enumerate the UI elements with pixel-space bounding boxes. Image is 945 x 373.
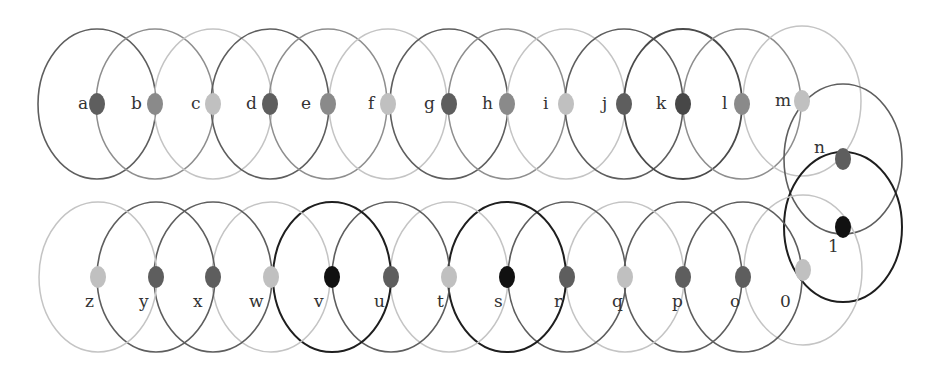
node-label-y: y xyxy=(138,291,149,311)
node-dot-t xyxy=(441,266,457,288)
node-dot-h xyxy=(499,93,515,115)
node-label-a: a xyxy=(78,93,88,113)
node-label-p: p xyxy=(672,291,683,311)
node-label-w: w xyxy=(249,291,264,311)
overlapping-circles-diagram: abcdefghijklmn10opqrstuvwxyz xyxy=(0,0,945,373)
node-label-1: 1 xyxy=(828,236,839,256)
node-label-s: s xyxy=(494,291,503,311)
node-label-c: c xyxy=(191,93,201,113)
node-dot-m xyxy=(794,90,810,112)
node-label-z: z xyxy=(85,291,94,311)
node-dot-z xyxy=(90,266,106,288)
labels-layer: abcdefghijklmn10opqrstuvwxyz xyxy=(78,90,839,311)
node-dot-f xyxy=(380,93,396,115)
node-dot-d xyxy=(262,93,278,115)
circles-layer xyxy=(38,26,902,352)
node-dot-b xyxy=(147,93,163,115)
node-dot-0 xyxy=(795,259,811,281)
node-dot-v xyxy=(324,266,340,288)
node-dot-c xyxy=(205,93,221,115)
node-label-k: k xyxy=(656,93,667,113)
node-label-l: l xyxy=(722,93,727,113)
node-label-b: b xyxy=(131,93,142,113)
node-dot-n xyxy=(835,148,851,170)
node-dot-1 xyxy=(835,216,851,238)
node-dot-u xyxy=(383,266,399,288)
node-dot-x xyxy=(205,266,221,288)
node-label-r: r xyxy=(554,291,563,311)
node-label-i: i xyxy=(543,93,549,113)
node-label-u: u xyxy=(374,291,385,311)
node-label-m: m xyxy=(775,90,791,110)
node-dot-g xyxy=(441,93,457,115)
node-label-d: d xyxy=(246,93,257,113)
node-label-j: j xyxy=(600,93,607,113)
node-label-e: e xyxy=(301,93,311,113)
node-dot-l xyxy=(734,93,750,115)
dots-layer xyxy=(89,90,851,288)
node-dot-q xyxy=(617,266,633,288)
node-dot-s xyxy=(499,266,515,288)
node-label-x: x xyxy=(193,291,203,311)
node-dot-r xyxy=(559,266,575,288)
node-label-t: t xyxy=(437,291,444,311)
node-dot-o xyxy=(735,266,751,288)
node-dot-p xyxy=(675,266,691,288)
node-label-n: n xyxy=(814,137,825,157)
node-label-h: h xyxy=(482,93,493,113)
node-dot-k xyxy=(675,93,691,115)
node-dot-i xyxy=(558,93,574,115)
node-label-o: o xyxy=(730,291,740,311)
node-label-q: q xyxy=(612,291,623,311)
node-dot-y xyxy=(148,266,164,288)
node-label-g: g xyxy=(424,93,435,113)
node-dot-a xyxy=(89,93,105,115)
node-label-0: 0 xyxy=(780,291,791,311)
node-dot-w xyxy=(263,266,279,288)
node-dot-j xyxy=(616,93,632,115)
node-label-f: f xyxy=(368,93,376,113)
node-dot-e xyxy=(320,93,336,115)
node-label-v: v xyxy=(313,291,324,311)
